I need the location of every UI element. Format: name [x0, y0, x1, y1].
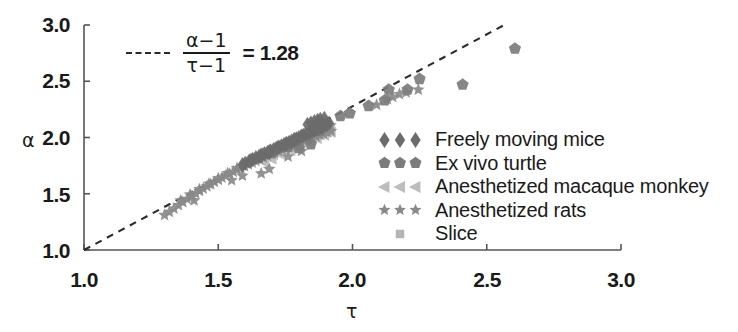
legend-item-freely-moving-mice[interactable]: Freely moving mice [371, 128, 721, 152]
y-tick-label-1.5: 1.5 [14, 183, 70, 207]
legend-item-ex-vivo-turtle[interactable]: Ex vivo turtle [371, 152, 721, 176]
y-tick-label-2.5: 2.5 [14, 69, 70, 93]
legend-item-label: Anesthetized macaque monkey [429, 175, 709, 198]
x-tick-label-2.5: 2.5 [457, 268, 517, 292]
equation-fraction: α−1 τ−1 [183, 30, 230, 75]
legend-item-label: Ex vivo turtle [429, 152, 547, 175]
x-tick-label-1.0: 1.0 [54, 268, 114, 292]
dashed-line-swatch [126, 52, 170, 54]
x-tick-label-2.0: 2.0 [322, 268, 382, 292]
pentagon-icon [371, 152, 429, 174]
equation-value: = 1.28 [243, 41, 299, 65]
legend-item-label: Freely moving mice [429, 128, 605, 151]
x-tick-label-1.5: 1.5 [188, 268, 248, 292]
triangle-left-icon [371, 176, 429, 198]
legend-item-anesthetized-macaque-monkey[interactable]: Anesthetized macaque monkey [371, 175, 721, 199]
y-tick-label-3.0: 3.0 [14, 13, 70, 37]
legend-item-label: Anesthetized rats [429, 199, 586, 222]
y-axis-title: α [22, 129, 35, 151]
star-icon [371, 199, 429, 221]
slope-equation-annotation: α−1 τ−1 = 1.28 [126, 30, 299, 75]
legend-item-slice[interactable]: Slice [371, 222, 721, 246]
x-axis-title: τ [346, 300, 357, 322]
equation-denominator: τ−1 [184, 55, 229, 76]
equation-numerator: α−1 [183, 30, 230, 51]
legend-item-anesthetized-rats[interactable]: Anesthetized rats [371, 199, 721, 223]
square-icon [371, 223, 429, 245]
scatter-plot-figure: 3.0 2.5 2.0 1.5 1.0 1.0 1.5 2.0 2.5 3.0 … [0, 0, 738, 332]
x-tick-label-3.0: 3.0 [591, 268, 651, 292]
diamond-icon [371, 129, 429, 151]
legend: Freely moving mice Ex vivo turtle Anesth… [371, 128, 721, 246]
legend-item-label: Slice [429, 222, 477, 245]
y-tick-label-1.0: 1.0 [14, 239, 70, 263]
